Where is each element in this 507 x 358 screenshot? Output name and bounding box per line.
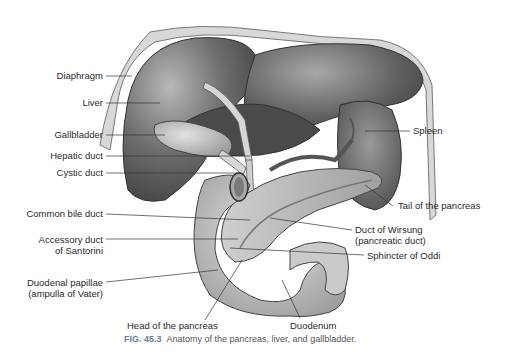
label-duodenal-papillae-line2: (ampulla of Vater)	[27, 288, 103, 299]
label-duct-of-wirsung-line2: (pancreatic duct)	[355, 235, 426, 246]
anatomy-illustration	[0, 0, 507, 358]
label-duct-of-wirsung-line1: Duct of Wirsung	[355, 224, 426, 235]
label-cystic-duct: Cystic duct	[57, 167, 103, 178]
figure-number: FIG. 45.3	[124, 334, 162, 344]
label-common-bile-duct: Common bile duct	[26, 208, 103, 219]
label-duodenum: Duodenum	[290, 320, 336, 331]
label-spleen: Spleen	[413, 125, 443, 136]
label-accessory-duct-line1: Accessory duct	[39, 234, 103, 245]
label-sphincter-of-oddi: Sphincter of Oddi	[367, 250, 440, 261]
label-liver: Liver	[82, 97, 103, 108]
label-duodenal-papillae-line1: Duodenal papillae	[27, 277, 103, 288]
figure-caption: FIG. 45.3 Anatomy of the pancreas, liver…	[124, 334, 356, 344]
label-hepatic-duct: Hepatic duct	[50, 150, 103, 161]
figure-caption-text: Anatomy of the pancreas, liver, and gall…	[167, 334, 357, 344]
label-duct-of-wirsung: Duct of Wirsung (pancreatic duct)	[355, 224, 426, 246]
label-gallbladder: Gallbladder	[54, 129, 103, 140]
label-accessory-duct: Accessory duct of Santorini	[39, 234, 103, 256]
label-diaphragm: Diaphragm	[57, 70, 103, 81]
label-duodenal-papillae: Duodenal papillae (ampulla of Vater)	[27, 277, 103, 299]
label-tail-of-pancreas: Tail of the pancreas	[398, 200, 480, 211]
label-accessory-duct-line2: of Santorini	[39, 245, 103, 256]
label-head-of-pancreas: Head of the pancreas	[127, 320, 218, 331]
